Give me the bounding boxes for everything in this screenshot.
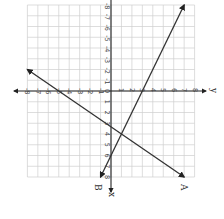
y-tick-label: 1 (117, 88, 125, 92)
y-tick-label: -7 (34, 88, 42, 94)
y-tick-label: 8 (191, 88, 199, 92)
x-tick-label: -6 (103, 25, 111, 31)
x-tick-label: -8 (103, 3, 111, 9)
y-tick-label: 4 (149, 88, 157, 92)
x-tick-label: 2 (103, 111, 111, 115)
x-tick-label: 4 (103, 132, 111, 136)
x-tick-label: 0 (103, 89, 111, 93)
y-tick-label: -4 (65, 88, 73, 94)
x-tick-label: -2 (103, 68, 111, 74)
y-tick-label: 5 (159, 88, 167, 92)
x-tick-label: -4 (103, 46, 111, 52)
y-axis-label: y (209, 87, 219, 94)
y-tick-label: -2 (86, 88, 94, 94)
y-tick-label: -8 (23, 88, 31, 94)
x-tick-label: -7 (103, 14, 111, 20)
line-a-label: A (179, 183, 189, 191)
x-tick-label: -5 (103, 35, 111, 41)
y-tick-label: 7 (180, 88, 188, 92)
x-tick-label: 1 (103, 100, 111, 104)
line-b-label: B (93, 184, 103, 191)
x-tick-label: -3 (103, 57, 111, 63)
y-tick-label: 2 (128, 88, 136, 92)
x-axis-label: x (107, 192, 117, 197)
y-tick-label: -3 (76, 88, 84, 94)
y-tick-label: -6 (44, 88, 52, 94)
coordinate-plane: -8-7-6-5-4-3-2-112345678-8-7-6-5-4-3-2-1… (0, 0, 224, 219)
x-tick-label: 8 (103, 175, 111, 179)
x-tick-label: -1 (103, 78, 111, 84)
y-tick-label: 6 (170, 88, 178, 92)
x-tick-label: 5 (103, 143, 111, 147)
